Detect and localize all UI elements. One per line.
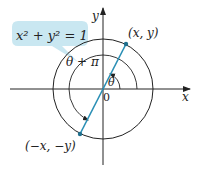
point-neg-x-neg-y: [78, 132, 82, 136]
theta-plus-pi-label: θ + π: [66, 55, 100, 69]
point-neg-x-neg-y-label: (−x, −y): [25, 139, 76, 153]
point-x-y: [124, 42, 128, 46]
equation-text: x² + y² = 1: [16, 28, 88, 43]
origin-label: 0: [103, 91, 110, 104]
x-axis-label: x: [182, 90, 189, 104]
point-x-y-label: (x, y): [128, 26, 159, 40]
y-axis-label: y: [91, 9, 99, 23]
unit-circle-diagram: x² + y² = 1 x y 0 θ θ + π (x, y) (−x, −y…: [0, 0, 201, 173]
